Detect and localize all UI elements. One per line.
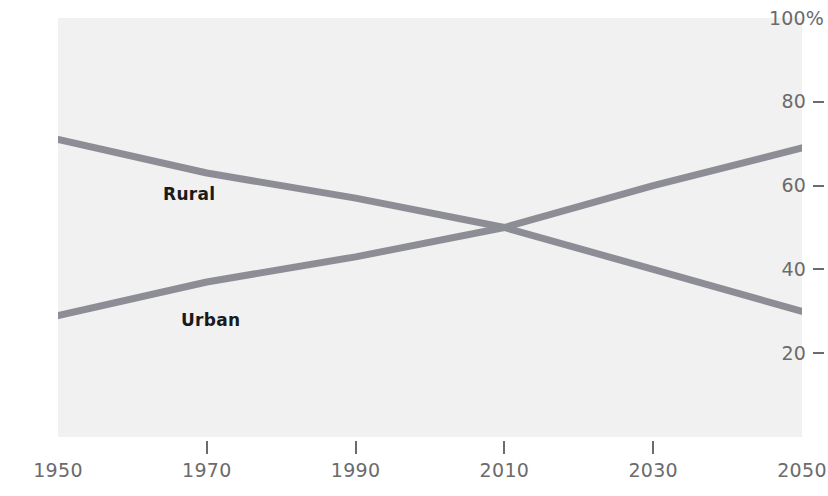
x-axis-tick-mark <box>503 441 505 454</box>
y-axis-tick-mark <box>813 268 824 270</box>
y-axis-tick: 100% <box>770 7 828 29</box>
y-axis-tick-label: 40 <box>781 260 806 279</box>
y-axis-tick-label: 100% <box>769 9 824 28</box>
y-axis-tick-label: 60 <box>781 176 806 195</box>
y-axis-tick-label: 80 <box>781 92 806 111</box>
x-axis-tick: 1950 <box>0 437 118 481</box>
plot-svg <box>58 18 802 437</box>
x-axis-tick-label: 1970 <box>147 459 267 481</box>
x-axis-tick: 1990 <box>296 437 416 481</box>
y-axis-tick: 80 <box>770 91 828 113</box>
x-axis-tick: 1970 <box>147 437 267 481</box>
x-axis-tick-mark <box>206 441 208 454</box>
chart-container: Rural Urban 100%80604020 195019701990201… <box>0 0 828 496</box>
plot-area <box>58 18 802 437</box>
x-axis-tick-label: 1990 <box>296 459 416 481</box>
x-axis-tick-label: 1950 <box>0 459 118 481</box>
series-label-rural: Rural <box>163 184 215 204</box>
y-axis-tick: 20 <box>770 342 828 364</box>
x-axis-tick: 2030 <box>593 437 713 481</box>
y-axis-tick-mark <box>813 101 824 103</box>
x-axis-tick-mark <box>355 441 357 454</box>
y-axis-tick-label: 20 <box>781 344 806 363</box>
x-axis-tick-label: 2030 <box>593 459 713 481</box>
series-urban-line <box>58 148 802 316</box>
y-axis-tick: 40 <box>770 258 828 280</box>
x-axis-tick: 2010 <box>444 437 564 481</box>
y-axis-tick: 60 <box>770 175 828 197</box>
y-axis-tick-mark <box>813 352 824 354</box>
x-axis-tick: 2050 <box>742 437 828 481</box>
x-axis-tick-label: 2050 <box>742 459 828 481</box>
series-label-urban: Urban <box>181 310 240 330</box>
x-axis-tick-label: 2010 <box>444 459 564 481</box>
series-rural-line <box>58 140 802 312</box>
x-axis-tick-mark <box>652 441 654 454</box>
y-axis-tick-mark <box>813 185 824 187</box>
